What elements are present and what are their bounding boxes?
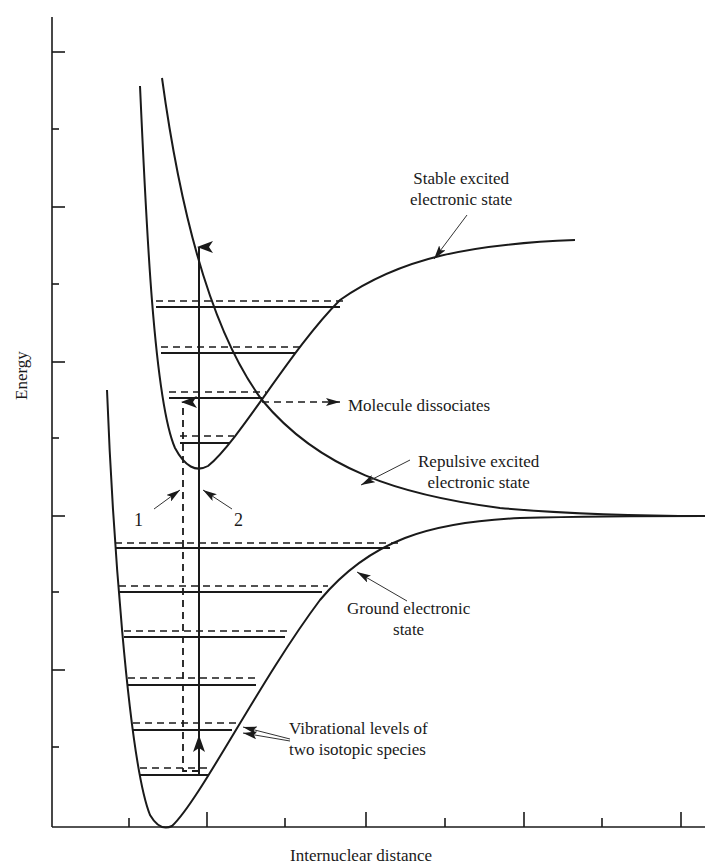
label-line: electronic state xyxy=(410,189,512,210)
label-transition-1: 1 xyxy=(134,510,143,531)
label-vibrational-levels: Vibrational levels of two isotopic speci… xyxy=(289,718,428,760)
label-line: Ground electronic xyxy=(347,598,470,619)
pointer-1 xyxy=(154,490,180,509)
label-ground-state: Ground electronic state xyxy=(347,598,470,640)
label-repulsive-excited: Repulsive excited electronic state xyxy=(418,451,539,493)
label-line: two isotopic species xyxy=(289,739,428,760)
pointer-repulsive xyxy=(361,460,410,485)
label-molecule-dissociates: Molecule dissociates xyxy=(348,395,490,416)
label-line: Vibrational levels of xyxy=(289,718,428,739)
x-axis-label: Internuclear distance xyxy=(290,846,432,865)
pointer-ground xyxy=(357,572,407,601)
label-line: Stable excited xyxy=(410,168,512,189)
label-transition-2: 2 xyxy=(234,510,243,531)
pointer-stable xyxy=(434,215,467,259)
label-line: Repulsive excited xyxy=(418,451,539,472)
y-axis-label: Energy xyxy=(12,351,32,400)
y-ticks xyxy=(52,52,65,747)
pointer-2 xyxy=(203,490,232,509)
axes xyxy=(52,17,705,827)
x-ticks xyxy=(129,812,681,827)
label-line: electronic state xyxy=(418,472,539,493)
label-line: state xyxy=(347,619,470,640)
label-stable-excited: Stable excited electronic state xyxy=(410,168,512,210)
